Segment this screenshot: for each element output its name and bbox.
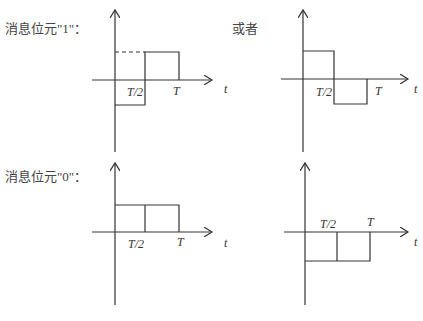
svg-text:T/2: T/2 — [316, 85, 332, 99]
svg-text:t: t — [224, 82, 228, 96]
svg-text:t: t — [414, 235, 418, 249]
chart-bit1-option-a: T/2 T t — [92, 10, 228, 152]
svg-text:T: T — [173, 84, 181, 98]
chart-bit0-option-b: T/2 T t — [284, 163, 418, 305]
svg-text:T: T — [367, 215, 375, 229]
svg-text:t: t — [414, 82, 418, 96]
chart-bit0-option-a: T/2 T t — [92, 163, 228, 305]
svg-text:T/2: T/2 — [128, 237, 144, 251]
svg-text:T/2: T/2 — [127, 85, 143, 99]
svg-text:T: T — [177, 235, 185, 249]
svg-text:t: t — [224, 236, 228, 250]
svg-text:T: T — [375, 84, 383, 98]
waveform-diagrams: T/2 T t T/2 T t T/2 T t T/2 T t — [0, 0, 423, 321]
chart-bit1-option-b: T/2 T t — [281, 10, 418, 152]
svg-text:T/2: T/2 — [320, 217, 336, 231]
